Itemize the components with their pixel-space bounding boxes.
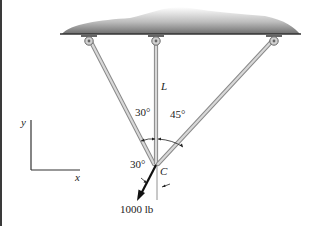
xy-axes — [31, 120, 80, 170]
statics-diagram: L 30° 45° C 30° 1000 lb y x — [0, 0, 318, 226]
label-axis-y: y — [20, 116, 26, 128]
label-angle-30-force: 30° — [130, 158, 145, 170]
diagram-frame: L 30° 45° C 30° 1000 lb y x — [0, 0, 318, 226]
ceiling — [60, 7, 301, 34]
label-L: L — [160, 80, 167, 92]
label-force: 1000 lb — [120, 203, 154, 215]
support-middle — [148, 34, 164, 45]
label-angle-30-left: 30° — [135, 106, 150, 118]
label-joint-C: C — [160, 165, 168, 177]
member-right — [158, 40, 273, 164]
force-arrow — [137, 165, 156, 201]
support-left — [81, 34, 97, 45]
angle-tick-right — [162, 184, 170, 187]
left-border — [0, 0, 2, 226]
angle-arc-30-left — [141, 138, 155, 142]
label-angle-45-right: 45° — [170, 108, 185, 120]
label-axis-x: x — [74, 171, 80, 183]
member-left — [90, 40, 154, 164]
